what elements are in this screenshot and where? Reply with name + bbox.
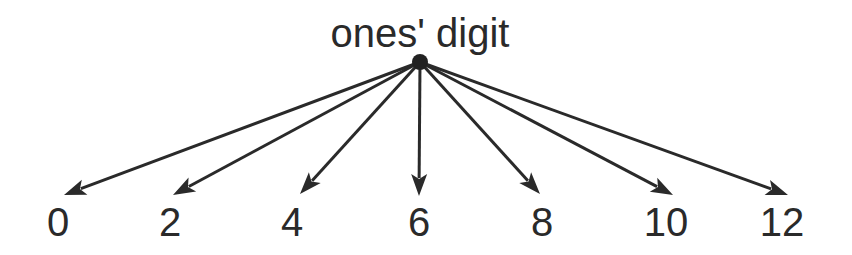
leaf-label-6: 6	[408, 200, 430, 244]
edge-line-12	[420, 62, 771, 189]
leaf-label-8: 8	[531, 200, 553, 244]
leaf-label-0: 0	[47, 200, 69, 244]
leaf-label-12: 12	[760, 200, 805, 244]
edge-line-10	[420, 62, 657, 187]
edge-line-8	[420, 62, 528, 181]
edges	[64, 62, 788, 196]
edge-line-0	[81, 62, 420, 189]
leaf-labels: 024681012	[47, 200, 804, 244]
edge-line-2	[189, 62, 420, 186]
tree-diagram: ones' digit 024681012	[0, 0, 852, 255]
edge-line-6	[419, 62, 420, 178]
arrowhead-icon	[650, 178, 673, 195]
arrowhead-icon	[173, 178, 196, 195]
root-label: ones' digit	[331, 11, 510, 55]
root-node-dot	[412, 54, 428, 70]
edge-line-4	[312, 62, 420, 181]
leaf-label-4: 4	[281, 200, 303, 244]
leaf-label-10: 10	[644, 200, 689, 244]
leaf-label-2: 2	[159, 200, 181, 244]
